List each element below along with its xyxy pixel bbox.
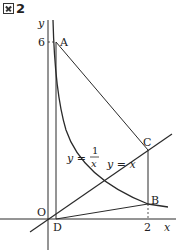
- point-B-label: B: [151, 194, 159, 207]
- line-label-y-equals-x: y = x: [106, 158, 136, 171]
- point-D-label: D: [53, 221, 62, 234]
- origin-label: O: [37, 206, 46, 219]
- point-C-label: C: [143, 136, 151, 149]
- hyperbola-label-numerator: 1: [92, 145, 98, 156]
- x-tick-2: 2: [144, 221, 151, 234]
- hyperbola-curve: [53, 20, 168, 207]
- hyperbola-label-lhs: y =: [66, 152, 86, 165]
- point-A-label: A: [59, 36, 69, 49]
- diagram-canvas: y 6 A C B O D 2 x y = 1 x y = x: [0, 0, 184, 250]
- segment-AC: [56, 42, 148, 150]
- y-axis-label: y: [37, 17, 45, 30]
- hyperbola-label-denominator: x: [91, 158, 97, 169]
- x-axis-label: x: [164, 221, 171, 234]
- y-tick-6: 6: [38, 36, 45, 49]
- segment-DB: [56, 204, 148, 219]
